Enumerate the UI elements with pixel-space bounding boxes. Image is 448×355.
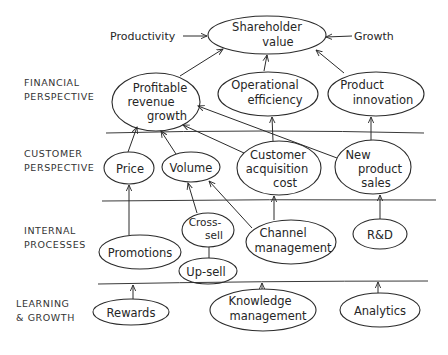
node-text: Analytics [354,304,406,318]
arrow-cac-to-prg [183,125,244,153]
node-text: cost [273,176,297,190]
node-channel-management: Channel management [246,220,336,264]
node-text: Customer [250,148,306,162]
node-text: Channel [259,226,306,240]
node-text: efficiency [247,93,302,107]
arrow-cac-to-oe [272,117,273,141]
node-text: revenue [127,95,174,109]
node-text: management [254,241,332,255]
node-text: innovation [353,93,414,107]
node-text: sales [361,176,390,190]
node-text: Price [116,162,144,176]
node-customer-acquisition-cost: Customer acquisition cost [237,141,321,195]
node-up-sell: Up-sell [179,258,237,284]
node-text: New [345,148,370,162]
node-text: Knowledge [228,294,291,308]
node-knowledge-management: Knowledge management [210,289,316,331]
arrow-growth [326,36,352,37]
node-text: acquisition [246,162,308,176]
node-price: Price [104,152,154,184]
node-analytics: Analytics [340,293,420,327]
node-text: Promotions [108,246,173,260]
node-text: Volume [170,161,213,175]
node-text: sell [205,229,223,241]
strategy-map-diagram: Shareholder value Productivity Growth Pr… [0,0,448,355]
node-text: Cross- [189,216,222,228]
node-text: Shareholder [232,20,302,34]
arrow-volume-to-prg [161,131,176,154]
node-product-innovation: Product innovation [328,72,424,116]
node-promotions: Promotions [99,235,181,269]
arrow-prg-to-sv [180,49,223,76]
node-rnd: R&D [353,219,407,249]
node-profitable-revenue-growth: Profitable revenue growth [112,73,200,131]
driver-productivity: Productivity [110,30,176,43]
node-operational-efficiency: Operational efficiency [218,72,318,116]
node-new-product-sales: New product sales [335,140,411,194]
divider-customer-internal [102,200,436,201]
node-cross-sell: Cross- sell [182,213,234,247]
node-text: product [358,162,403,176]
arrow-crosssell-to-volume [188,183,197,213]
node-rewards: Rewards [93,299,169,325]
driver-growth: Growth [354,30,394,43]
arrow-price-to-prg [128,127,137,152]
node-text: R&D [367,228,393,242]
node-text: Operational [231,78,298,92]
node-text: Rewards [107,306,156,320]
node-text: Product [340,78,384,92]
node-volume: Volume [162,152,220,182]
node-shareholder-value: Shareholder value [208,16,326,54]
node-text: value [262,35,293,49]
node-text: Up-sell [186,265,225,279]
node-text: management [229,309,307,323]
arrow-oe-to-sv [264,55,267,71]
arrow-pi-to-sv [316,50,344,73]
node-text: growth [147,109,187,123]
node-text: Profitable [133,81,188,95]
